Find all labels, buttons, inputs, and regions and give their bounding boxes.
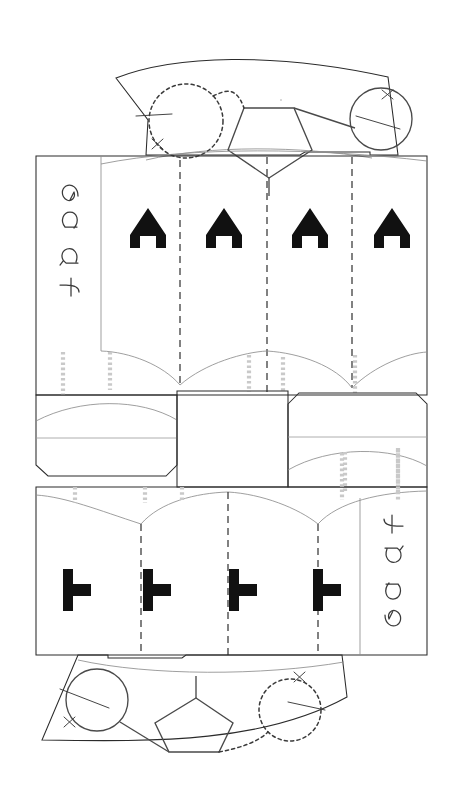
- top-right-x-mark: [382, 90, 393, 99]
- top-fan-section: [116, 59, 412, 196]
- bottom-panel-band: [36, 450, 427, 655]
- bottom-solid-circle-icon: [66, 669, 128, 731]
- top-handwritten-note: [60, 185, 79, 296]
- top-panel-scallop-3: [267, 351, 352, 388]
- top-dashed-connector: [213, 91, 244, 108]
- bottom-dashed-connector: [219, 732, 268, 752]
- top-letter-A-1: [130, 208, 166, 248]
- bottom-panel-scallop-3: [228, 492, 318, 524]
- bottom-letter-T-3: [229, 569, 257, 611]
- top-fan-outline: [116, 59, 398, 155]
- middle-right-tab-arc: [288, 451, 427, 470]
- bottom-left-pointer: [60, 689, 109, 708]
- bottom-letter-T-1: [63, 569, 91, 611]
- top-panel-scallop-2: [180, 351, 267, 385]
- middle-left-tab: [36, 395, 177, 476]
- bottom-fan-inner-arc: [78, 660, 344, 672]
- top-pentagon-icon: [228, 108, 312, 178]
- middle-right-tab: [288, 393, 427, 487]
- top-panel-band: [36, 151, 427, 395]
- bottom-fan-section: [42, 655, 347, 752]
- bottom-panel-scallop-2: [141, 492, 228, 524]
- bottom-panel-scallop-4: [318, 491, 427, 524]
- top-panel-scallop-4: [352, 352, 427, 388]
- diecut-template-drawing: [0, 0, 450, 800]
- top-left-pointer: [136, 114, 172, 116]
- middle-tab-row: [36, 391, 427, 492]
- bottom-right-pointer: [288, 702, 325, 710]
- top-letter-A-2: [206, 208, 242, 248]
- template-canvas: [0, 0, 450, 800]
- top-panel-scallop-1: [101, 351, 180, 385]
- middle-center-tab: [177, 391, 288, 487]
- bottom-left-x-mark: [64, 717, 75, 727]
- top-panel-top-arc: [101, 151, 427, 164]
- middle-left-tab-arc: [36, 404, 177, 421]
- bottom-letter-T-2: [143, 569, 171, 611]
- bottom-letter-T-4: [313, 569, 341, 611]
- bottom-handwritten-note: [384, 515, 403, 626]
- top-solid-connector: [294, 108, 355, 128]
- top-band-outline: [36, 156, 427, 395]
- top-letter-A-3: [292, 208, 328, 248]
- top-letter-A-4: [374, 208, 410, 248]
- bottom-pentagon-icon: [155, 698, 233, 752]
- bottom-panel-scallop-1: [36, 495, 141, 524]
- top-left-x-mark: [152, 139, 163, 149]
- top-solid-circle-icon: [350, 88, 412, 150]
